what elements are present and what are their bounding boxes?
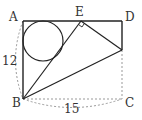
label-c: C [125, 96, 134, 110]
geometry-diagram: A E D B C 12 15 [0, 0, 142, 120]
segment-be [23, 21, 81, 99]
segment-ef [81, 21, 122, 50]
label-side-ab: 12 [2, 54, 17, 68]
inscribed-circle [23, 21, 63, 61]
label-side-bc: 15 [64, 102, 79, 116]
label-e: E [75, 5, 84, 19]
label-a: A [8, 10, 18, 24]
label-b: B [12, 96, 21, 110]
segment-bf [23, 50, 122, 99]
label-d: D [125, 10, 135, 24]
